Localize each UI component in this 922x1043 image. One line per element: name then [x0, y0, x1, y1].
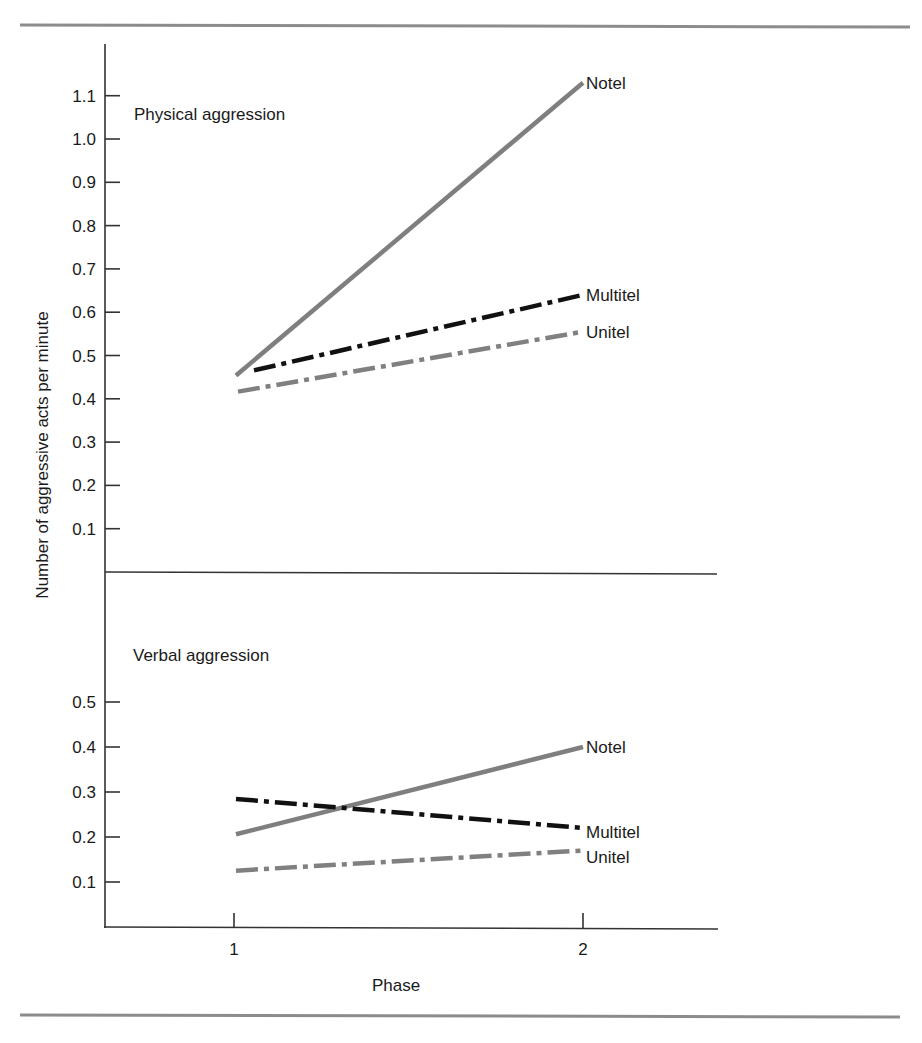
- y-tick-label: 0.5: [72, 347, 96, 366]
- aggression-chart: 0.10.20.30.40.50.60.70.80.91.01.1 0.10.2…: [0, 0, 922, 1043]
- y-tick-label: 0.4: [72, 738, 96, 757]
- y-tick-label: 1.1: [72, 87, 96, 106]
- y-tick-label: 0.3: [72, 783, 96, 802]
- x-axis-title: Phase: [372, 976, 420, 995]
- y-axis-title: Number of aggressive acts per minute: [33, 311, 52, 598]
- top-panel-y-ticks: 0.10.20.30.40.50.60.70.80.91.01.1: [72, 87, 120, 539]
- series-line-notel: [236, 83, 583, 376]
- series-label-notel: Notel: [586, 738, 626, 757]
- series-line-unitel: [236, 851, 583, 871]
- series-labels: NotelMultitelUnitelNotelMultitelUnitel: [586, 74, 640, 867]
- series-label-notel: Notel: [586, 74, 626, 93]
- panel-title-physical: Physical aggression: [134, 105, 285, 124]
- y-tick-label: 0.1: [72, 873, 96, 892]
- x-ticks: 12: [229, 913, 587, 959]
- series-label-unitel: Unitel: [586, 848, 629, 867]
- series-lines: [236, 83, 583, 871]
- panel-divider: [105, 572, 717, 574]
- y-tick-label: 0.2: [72, 828, 96, 847]
- x-tick-label: 2: [578, 940, 587, 959]
- series-label-unitel: Unitel: [586, 323, 629, 342]
- y-tick-label: 0.2: [72, 476, 96, 495]
- y-tick-label: 0.3: [72, 433, 96, 452]
- top-rule: [20, 25, 910, 27]
- y-tick-label: 0.5: [72, 693, 96, 712]
- series-line-unitel: [238, 332, 583, 392]
- x-axis: [104, 927, 718, 929]
- y-tick-label: 0.1: [72, 520, 96, 539]
- bottom-panel-y-ticks: 0.10.20.30.40.5: [72, 693, 120, 892]
- series-line-multitel: [236, 799, 583, 828]
- y-tick-label: 0.8: [72, 217, 96, 236]
- bottom-rule: [20, 1015, 900, 1017]
- y-tick-label: 0.6: [72, 303, 96, 322]
- series-line-multitel: [254, 295, 583, 371]
- panel-title-verbal: Verbal aggression: [133, 646, 269, 665]
- x-tick-label: 1: [229, 940, 238, 959]
- y-tick-label: 0.7: [72, 260, 96, 279]
- y-tick-label: 0.9: [72, 173, 96, 192]
- series-label-multitel: Multitel: [586, 286, 640, 305]
- y-tick-label: 1.0: [72, 130, 96, 149]
- y-tick-label: 0.4: [72, 390, 96, 409]
- series-label-multitel: Multitel: [586, 823, 640, 842]
- series-line-notel: [236, 747, 583, 834]
